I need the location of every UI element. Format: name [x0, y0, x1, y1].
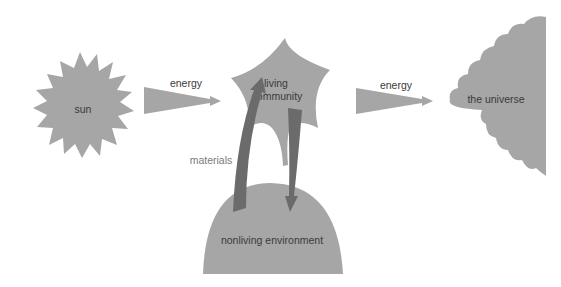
nonliving-environment-label: nonliving environment: [221, 234, 323, 246]
nonliving-environment-shape: [203, 183, 343, 274]
energy-in-wedge: [144, 87, 221, 114]
energy-in-label: energy: [170, 77, 203, 89]
sun-node: sun: [33, 52, 134, 158]
energy-in-arrow: energy: [144, 77, 221, 114]
materials-label: materials: [190, 154, 233, 166]
energy-out-wedge: [356, 88, 433, 114]
universe-label: the universe: [467, 93, 524, 105]
universe-node: the universe: [450, 16, 546, 176]
energy-out-arrow: energy: [356, 79, 433, 114]
living-community-label-line1: living: [264, 77, 288, 89]
energy-out-label: energy: [380, 79, 413, 91]
nonliving-environment-node: nonliving environment: [203, 183, 343, 274]
sun-label: sun: [75, 103, 92, 115]
ecosystem-diagram: sun energy living community energy the u…: [0, 0, 561, 287]
